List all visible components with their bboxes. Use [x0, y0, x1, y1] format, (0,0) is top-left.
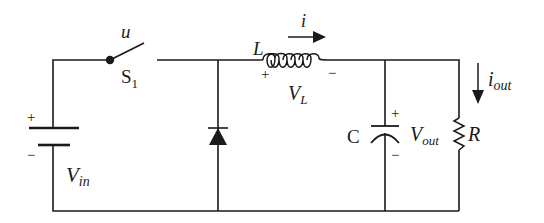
inductor-plus-sign: + — [261, 66, 269, 82]
resistor: R iout — [454, 63, 513, 150]
inductor: L i + − VL — [252, 11, 336, 107]
capacitor-minus-sign: − — [391, 147, 399, 163]
switch: u S1 — [106, 21, 144, 91]
output-current-arrow-icon — [472, 90, 484, 104]
inductor-minus-sign: − — [328, 65, 336, 81]
capacitor-plus-sign: + — [391, 105, 399, 121]
inductor-voltage-label: VL — [288, 82, 307, 107]
inductor-current-arrow-icon — [313, 31, 326, 43]
capacitor: C + − Vout — [347, 105, 439, 163]
capacitor-label: C — [347, 126, 360, 147]
inductor-coil — [263, 54, 332, 68]
buck-converter-diagram: + − Vin u S1 L i + − VL C + − Vout R — [0, 0, 544, 223]
output-voltage-label: Vout — [410, 123, 439, 148]
source-label: Vin — [66, 163, 90, 189]
switch-arm — [110, 43, 144, 60]
source-plus-sign: + — [27, 109, 35, 125]
inductor-label: L — [252, 38, 264, 59]
switch-control-label: u — [121, 21, 131, 42]
wires — [53, 60, 459, 211]
resistor-zigzag — [454, 118, 464, 150]
source-minus-sign: − — [27, 147, 35, 163]
resistor-label: R — [467, 123, 480, 145]
switch-label: S1 — [121, 66, 138, 91]
diode-triangle — [209, 128, 227, 145]
inductor-current-label: i — [301, 11, 306, 31]
voltage-source: + − Vin — [27, 109, 90, 189]
diode — [208, 128, 228, 145]
wire-source-top — [53, 60, 110, 128]
output-current-label: iout — [488, 68, 513, 93]
